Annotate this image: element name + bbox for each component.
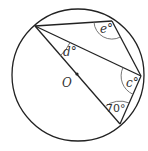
angle-label-d: d° [63, 45, 77, 59]
angle-label-c: c° [126, 76, 139, 90]
center-point [75, 72, 78, 75]
angle-label-70: 70° [106, 102, 126, 115]
angle-label-e: e° [100, 22, 113, 36]
circle-theorem-diagram: e° d° c° 70° O [0, 0, 148, 151]
center-label-o: O [62, 76, 72, 90]
diagram-canvas: e° d° c° 70° O [0, 0, 148, 151]
chord-ac [35, 26, 141, 76]
chord-bc [112, 21, 141, 76]
